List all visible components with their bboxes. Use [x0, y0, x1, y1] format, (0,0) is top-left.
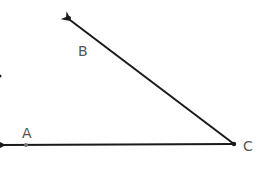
label-c: C: [243, 138, 253, 154]
label-a: A: [22, 125, 32, 141]
label-b: B: [78, 43, 88, 59]
stray-dot: [0, 75, 2, 78]
vertex-c: [232, 142, 236, 146]
point-a: [24, 143, 28, 147]
ray-cb: [70, 20, 234, 144]
point-b: [67, 16, 71, 20]
ray-ca: [4, 144, 234, 145]
angle-diagram: A B C: [0, 0, 271, 175]
